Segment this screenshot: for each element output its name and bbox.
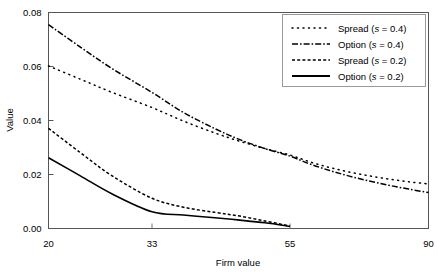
x-tick-label: 33 [147,238,158,249]
y-tick-label: 0.06 [23,61,42,72]
y-tick-label: 0.02 [23,169,42,180]
x-tick-label: 55 [285,238,296,249]
legend-entry-label: Option (s = 0.2) [338,71,404,82]
y-tick-label: 0.04 [23,115,42,126]
legend-entry-label: Spread (s = 0.4) [338,23,406,34]
x-axis-label: Firm value [216,257,260,268]
line-chart: 0.000.020.040.060.08 20335590 Value Firm… [0,0,441,272]
y-axis-label: Value [4,108,15,132]
legend-entry-label: Spread (s = 0.2) [338,55,406,66]
chart-legend: Spread (s = 0.4)Option (s = 0.4)Spread (… [283,15,426,87]
chart-figure: 0.000.020.040.060.08 20335590 Value Firm… [0,0,441,272]
x-tick-label: 90 [423,238,434,249]
x-tick-label: 20 [43,238,54,249]
legend-entry-label: Option (s = 0.4) [338,39,404,50]
y-tick-label: 0.08 [23,7,42,18]
y-tick-label: 0.00 [23,223,42,234]
